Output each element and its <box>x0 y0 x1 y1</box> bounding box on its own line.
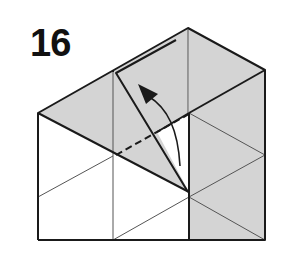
origami-diagram <box>0 0 284 258</box>
